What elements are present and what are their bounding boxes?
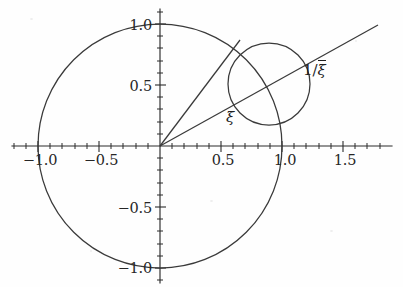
ray-to-xi bbox=[160, 40, 240, 146]
xi-glyph: ξ bbox=[226, 108, 234, 126]
xi-bar-glyph: ξ bbox=[318, 61, 326, 79]
y-tick-label--0.5: −0.5 bbox=[118, 200, 152, 216]
x-tick-label-1.0: 1.0 bbox=[274, 152, 296, 168]
axis-group bbox=[12, 9, 392, 283]
x-tick-label-1.5: 1.5 bbox=[334, 152, 356, 168]
xi-label: ξ bbox=[226, 108, 234, 126]
plot-svg bbox=[0, 0, 403, 287]
x-tick-label--1.0: −1.0 bbox=[23, 152, 57, 168]
small-circle bbox=[228, 43, 310, 125]
one-over-xi-bar-label: 1/ξ bbox=[303, 61, 326, 79]
one-over-text: 1/ bbox=[303, 61, 318, 79]
y-tick-label-0.5: 0.5 bbox=[130, 78, 152, 94]
y-tick-label--1.0: −1.0 bbox=[118, 260, 152, 276]
x-tick-label--0.5: −0.5 bbox=[84, 152, 118, 168]
y-tick-label-1.0: 1.0 bbox=[130, 17, 152, 33]
figure-canvas: −1.0 −0.5 0.5 1.0 1.5 1.0 0.5 −0.5 −1.0 … bbox=[0, 0, 403, 287]
x-tick-label-0.5: 0.5 bbox=[212, 152, 234, 168]
